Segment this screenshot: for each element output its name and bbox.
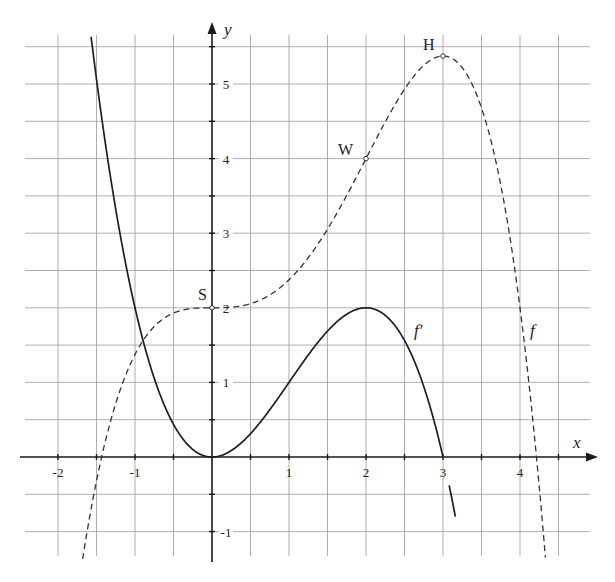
x-tick-label: -2 [53,465,64,480]
marked-points: SWH [198,36,445,310]
y-tick-label: 1 [223,375,230,390]
y-axis-label: y [222,20,232,39]
axes [20,22,598,562]
x-axis-arrow-icon [586,453,598,462]
y-axis-arrow-icon [208,22,217,34]
x-tick-label: 2 [363,465,370,480]
x-axis-label: x [572,433,581,452]
point-label-w: W [338,141,354,158]
x-tick-label: 1 [286,465,293,480]
chart-plot: -2-11234-112345 SWH y x f′ f [0,0,615,582]
series-label-f: f [530,321,537,340]
y-tick-label: 4 [223,152,230,167]
point-h-marker [441,54,446,59]
x-tick-label: 3 [440,465,447,480]
x-tick-label: 4 [517,465,524,480]
x-tick-label: -1 [130,465,141,480]
curve-f-prime [91,37,455,517]
point-s-marker [210,306,215,311]
y-tick-label: -1 [221,525,232,540]
point-w-marker [364,156,369,161]
series-label-f-prime: f′ [414,321,423,340]
y-tick-label: 3 [223,226,230,241]
point-label-s: S [198,286,207,303]
y-tick-label: 5 [223,77,230,92]
grid-lines [25,35,590,556]
point-label-h: H [423,36,435,53]
